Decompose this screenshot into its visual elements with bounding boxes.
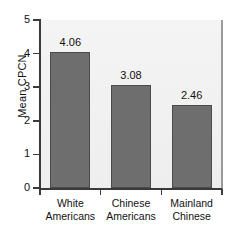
x-axis-tick: [221, 189, 223, 195]
bar-chart-figure: Mean CPCN 012345 4.063.082.46 WhiteAmeri…: [0, 0, 246, 233]
x-axis-category-label: MainlandChinese: [150, 197, 234, 222]
y-axis-tick-label: 2: [14, 115, 30, 126]
bar-value-label: 3.08: [101, 70, 161, 81]
x-axis-line: [39, 188, 222, 190]
bar-value-label: 4.06: [40, 37, 100, 48]
bar: [172, 105, 212, 188]
y-axis-tick-label: 1: [14, 148, 30, 159]
x-axis-tick: [39, 189, 41, 195]
y-axis-tick-label: 3: [14, 81, 30, 92]
y-axis-tick: [33, 53, 39, 55]
category-label-line: Chinese: [150, 210, 234, 223]
y-axis-tick-label: 4: [14, 48, 30, 59]
y-axis-tick-label: 0: [14, 182, 30, 193]
y-axis-tick: [33, 154, 39, 156]
y-axis-tick: [33, 120, 39, 122]
y-axis-tick-label: 5: [14, 14, 30, 25]
bar-value-label: 2.46: [162, 90, 222, 101]
bar: [50, 52, 90, 188]
y-axis-tick: [33, 187, 39, 189]
y-axis-tick: [33, 19, 39, 21]
x-axis-tick: [100, 189, 102, 195]
y-axis-tick: [33, 86, 39, 88]
bar: [111, 85, 151, 188]
x-axis-tick: [161, 189, 163, 195]
plot-right-border: [221, 20, 223, 190]
category-label-line: Mainland: [150, 197, 234, 210]
